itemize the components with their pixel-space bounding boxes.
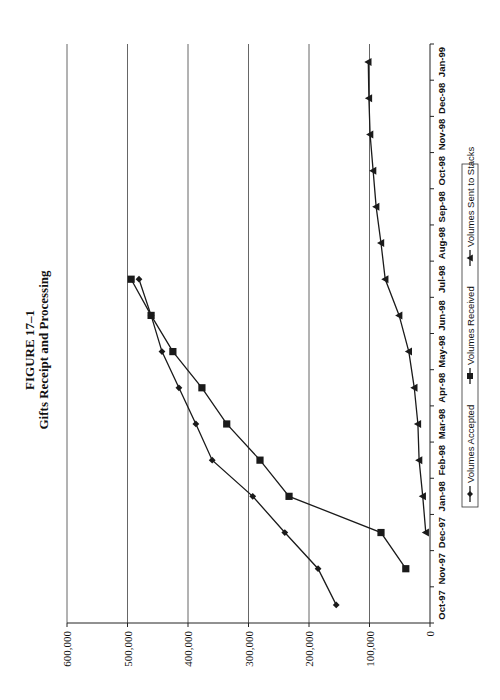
figure-number: FIGURE 17–1	[22, 310, 37, 390]
diamond-marker	[333, 602, 340, 609]
value-tick-label: 300,000	[243, 631, 255, 667]
date-tick-label: Nov-97	[436, 553, 447, 585]
diamond-marker	[159, 348, 166, 355]
square-marker	[377, 529, 384, 536]
series-line	[131, 279, 406, 569]
date-tick-label: Aug-98	[436, 227, 447, 259]
date-tick-label: Dec-98	[436, 83, 447, 114]
value-tick-label: 600,000	[61, 631, 73, 667]
series-line	[368, 62, 425, 532]
square-marker	[147, 312, 154, 319]
date-tick-label: Sep-98	[436, 191, 447, 222]
date-tick-label: Dec-97	[436, 517, 447, 548]
gridlines	[67, 44, 370, 623]
square-marker	[256, 457, 263, 464]
date-tick-label: Nov-98	[436, 119, 447, 151]
date-tick-label: Jul-98	[436, 265, 447, 292]
value-axis-labels: 0100,000200,000300,000400,000500,000600,…	[61, 631, 436, 667]
diamond-marker	[136, 276, 143, 283]
date-axis-labels: Oct-97Nov-97Dec-97Jan-98Feb-98Mar-98Apr-…	[436, 47, 447, 620]
chart: FIGURE 17–1 Gifts Receipt and Processing…	[0, 0, 500, 700]
figure-title: Gifts Receipt and Processing	[36, 270, 51, 429]
square-marker	[128, 276, 135, 283]
value-tick-label: 400,000	[182, 631, 194, 667]
series-volumes-received	[128, 276, 410, 573]
square-marker	[198, 384, 205, 391]
series-volumes-sent-to-stacks	[364, 58, 429, 536]
legend-label: Volumes Received	[465, 286, 476, 365]
value-tick-label: 100,000	[364, 631, 376, 667]
square-marker	[223, 420, 230, 427]
date-tick-label: May-98	[436, 335, 447, 367]
series-line	[139, 279, 336, 605]
legend-label: Volumes Accepted	[465, 405, 476, 483]
date-tick-label: Jun-98	[436, 300, 447, 331]
square-marker	[169, 348, 176, 355]
date-tick-label: Oct-97	[436, 590, 447, 620]
square-marker	[467, 373, 473, 379]
series-lines	[128, 58, 429, 608]
value-tick-label: 500,000	[122, 631, 134, 667]
square-marker	[285, 493, 292, 500]
legend-label: Volumes Sent to Stacks	[465, 146, 476, 247]
value-tick-label: 0	[424, 631, 436, 637]
diamond-marker	[192, 421, 199, 428]
value-tick-label: 200,000	[303, 631, 315, 667]
date-tick-label: Oct-98	[436, 156, 447, 186]
date-tick-label: Jan-98	[436, 481, 447, 511]
diamond-marker	[176, 384, 183, 391]
legend: Volumes AcceptedVolumes ReceivedVolumes …	[462, 146, 478, 507]
date-tick-label: Feb-98	[436, 445, 447, 476]
axes	[67, 44, 434, 627]
square-marker	[402, 565, 409, 572]
date-tick-label: Apr-98	[436, 373, 447, 403]
date-tick-label: Mar-98	[436, 409, 447, 440]
date-tick-label: Jan-99	[436, 47, 447, 77]
